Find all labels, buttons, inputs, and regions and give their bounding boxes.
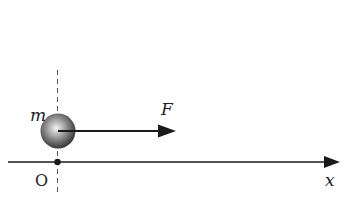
origin-label: O [35, 171, 48, 190]
x-axis-arrowhead-icon [324, 156, 340, 168]
force-arrowhead-icon [158, 125, 176, 138]
force-label: F [160, 99, 174, 119]
mass-label: m [30, 105, 46, 125]
force-arrow [58, 125, 176, 138]
x-axis-label: x [325, 170, 335, 190]
diagram-canvas: m F O x [0, 0, 350, 205]
origin-point [54, 159, 60, 165]
